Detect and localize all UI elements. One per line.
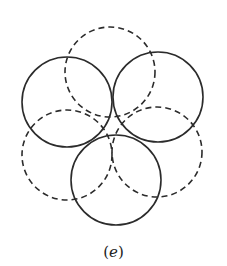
circle-solid-left [22, 57, 112, 147]
circle-solid-bottom [71, 135, 161, 225]
circle-dashed-left [22, 110, 112, 200]
circle-solid-right [113, 52, 203, 142]
circle-arrangement-diagram [0, 0, 227, 266]
circle-dashed-top [65, 27, 155, 117]
figure-caption: (e) [0, 243, 227, 261]
caption-label: e [109, 243, 118, 261]
caption-close-paren: ) [118, 243, 124, 261]
circle-dashed-right [112, 107, 202, 197]
